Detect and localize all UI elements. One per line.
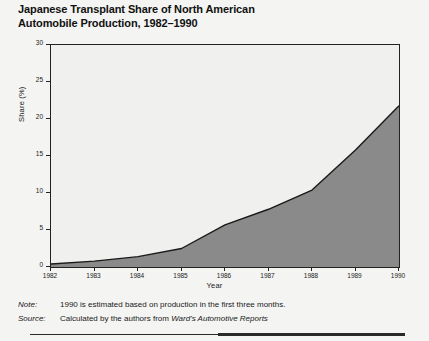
note-label: Note: — [18, 298, 60, 312]
source-text-plain: Calculated by the authors from — [60, 314, 171, 323]
y-axis-tick-label: 10 — [36, 187, 43, 194]
divider-thick-segment — [218, 333, 406, 336]
y-axis-tick-label: 15 — [36, 150, 43, 157]
y-axis-tick-label: 25 — [36, 76, 43, 83]
x-axis-tick-label: 1985 — [173, 272, 187, 279]
x-axis-tick-mark — [268, 267, 269, 271]
y-axis-tick-mark — [46, 44, 50, 45]
bottom-divider — [30, 333, 405, 336]
x-axis-tick-mark — [50, 267, 51, 271]
x-axis-tick-mark — [94, 267, 95, 271]
x-axis-tick-label: 1986 — [217, 272, 231, 279]
y-axis-tick-mark — [46, 155, 50, 156]
x-axis-tick-label: 1982 — [43, 272, 57, 279]
y-axis-tick-mark — [46, 229, 50, 230]
area-chart-plot — [51, 45, 399, 267]
footnotes: Note: 1990 is estimated based on product… — [18, 298, 418, 326]
x-axis-tick-label: 1989 — [347, 272, 361, 279]
source-publication-title: Ward's Automotive Reports — [171, 314, 268, 323]
divider-thin-segment — [30, 334, 218, 335]
x-axis-tick-label: 1988 — [304, 272, 318, 279]
figure-container: Japanese Transplant Share of North Ameri… — [0, 0, 429, 341]
y-axis-title: Share (%) — [17, 86, 26, 122]
area-series-fill — [51, 106, 399, 267]
plot-area — [50, 44, 400, 268]
note-row: Note: 1990 is estimated based on product… — [18, 298, 418, 312]
y-axis-tick-label: 30 — [36, 39, 43, 46]
x-axis-title: Year — [0, 281, 429, 290]
x-axis-tick-mark — [137, 267, 138, 271]
x-axis-tick-mark — [181, 267, 182, 271]
y-axis-tick-mark — [46, 81, 50, 82]
y-axis: 051015202530 — [0, 44, 50, 266]
y-axis-tick-mark — [46, 118, 50, 119]
source-text: Calculated by the authors from Ward's Au… — [60, 312, 418, 326]
chart-title: Japanese Transplant Share of North Ameri… — [18, 3, 318, 30]
note-text: 1990 is estimated based on production in… — [60, 298, 418, 312]
y-axis-tick-label: 20 — [36, 113, 43, 120]
x-axis-tick-mark — [398, 267, 399, 271]
x-axis-tick-mark — [311, 267, 312, 271]
x-axis-tick-label: 1990 — [391, 272, 405, 279]
x-axis-tick-label: 1984 — [130, 272, 144, 279]
y-axis-tick-mark — [46, 192, 50, 193]
x-axis-tick-mark — [224, 267, 225, 271]
y-axis-tick-label: 0 — [39, 261, 43, 268]
x-axis-tick-label: 1987 — [260, 272, 274, 279]
x-axis-tick-label: 1983 — [86, 272, 100, 279]
source-row: Source: Calculated by the authors from W… — [18, 312, 418, 326]
source-label: Source: — [18, 312, 60, 326]
x-axis-tick-mark — [355, 267, 356, 271]
y-axis-tick-label: 5 — [39, 224, 43, 231]
